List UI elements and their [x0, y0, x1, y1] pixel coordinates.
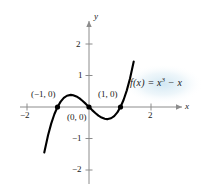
function-expression-label: f(x) = x3 − x	[130, 78, 182, 88]
point-marker-1-0	[118, 104, 123, 109]
x-tick-label-neg2: −2	[20, 111, 30, 120]
y-tick-label-neg2: −2	[72, 165, 82, 174]
point-marker-0-0	[86, 104, 91, 109]
y-tick-label-neg1: −1	[72, 134, 82, 143]
x-axis-arrow	[176, 104, 182, 109]
x-axis-label: x	[185, 102, 189, 111]
y-tick-label-2: 2	[76, 40, 81, 49]
function-expression-prefix: f(x) = x	[130, 77, 162, 88]
y-axis-arrow	[86, 21, 91, 27]
point-label-1-0: (1, 0)	[98, 90, 118, 99]
x-tick-label-2: 2	[148, 111, 153, 120]
point-label-neg1-0: (−1, 0)	[31, 90, 56, 99]
point-label-0-0: (0, 0)	[67, 113, 87, 122]
cubic-function-graph-figure: y x 2 1 −1 −2 −2 2 (−1, 0) (0, 0) (1, 0)…	[0, 0, 210, 194]
point-marker-neg1-0	[55, 104, 60, 109]
y-axis-label: y	[94, 12, 98, 21]
y-tick-label-1: 1	[78, 71, 83, 80]
function-expression-suffix: − x	[165, 77, 182, 88]
